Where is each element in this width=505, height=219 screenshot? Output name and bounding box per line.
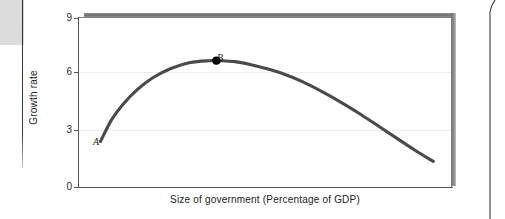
y-tick-label-9-wrap: 9	[54, 13, 72, 23]
growth-rate-curve-path	[100, 61, 433, 162]
x-axis-title: Size of government (Percentage of GDP)	[78, 194, 452, 205]
y-tick-label-6: 6	[54, 67, 72, 77]
y-tick-label-3-wrap: 3	[54, 125, 72, 135]
y-tick-label-9: 9	[54, 13, 72, 23]
figure-page: 9 6 3 0 Growth rate Size of government (…	[0, 0, 505, 219]
scan-shadow-block	[0, 0, 24, 45]
page-edge-left-line	[22, 0, 23, 168]
page-edge-right-line	[470, 0, 504, 219]
y-tick-label-0: 0	[54, 182, 72, 192]
y-axis-title: Growth rate	[28, 48, 39, 148]
point-b-label: B	[217, 52, 223, 63]
y-tick-label-0-wrap: 0	[54, 182, 72, 192]
y-tick-label-3: 3	[54, 125, 72, 135]
growth-rate-curve-svg	[78, 17, 452, 188]
y-tick-label-6-wrap: 6	[54, 67, 72, 77]
point-a-label: A	[93, 136, 99, 147]
